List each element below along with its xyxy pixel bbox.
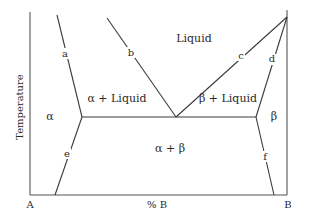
curve-label-c: c: [238, 50, 244, 61]
region-beta: β: [271, 110, 277, 123]
endpoint-a-label: A: [25, 199, 34, 210]
curve-label-b: b: [128, 47, 134, 58]
y-axis-label: Temperature: [14, 74, 25, 140]
region-alpha: α: [46, 110, 54, 123]
region-liquid: Liquid: [176, 32, 212, 45]
curve-a: [57, 15, 82, 117]
endpoint-b-label: B: [284, 199, 291, 210]
region-alpha-beta: α + β: [155, 142, 185, 155]
region-beta-liquid: β + Liquid: [199, 92, 257, 105]
phase-diagram: a b c d e f Liquid α + Liquid β + Liquid…: [0, 0, 310, 219]
region-alpha-liquid: α + Liquid: [87, 92, 146, 105]
curve-d: [256, 17, 287, 117]
curve-label-e: e: [64, 148, 70, 159]
x-axis-label: % B: [147, 199, 167, 210]
curve-label-d: d: [269, 53, 276, 64]
curve-label-a: a: [62, 48, 68, 59]
